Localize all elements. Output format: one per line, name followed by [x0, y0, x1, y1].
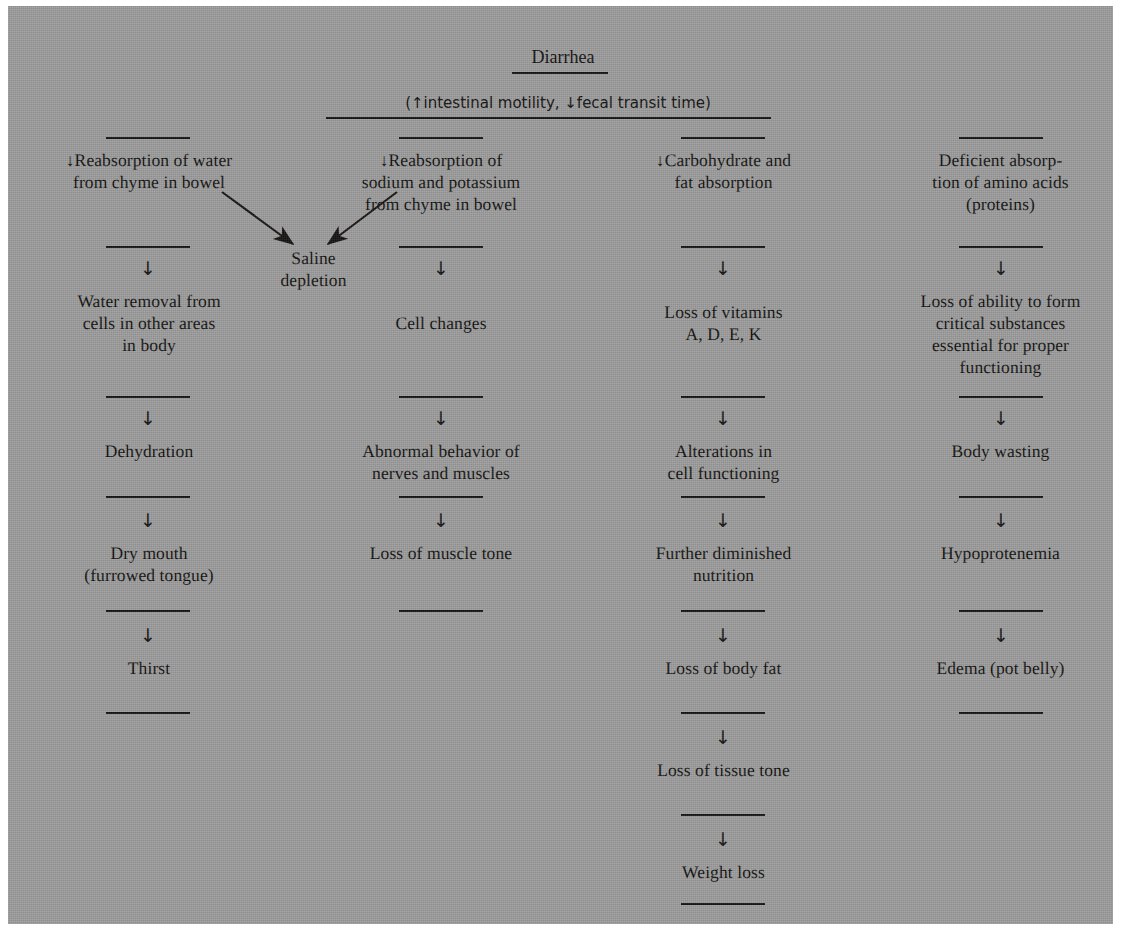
arrow-c1-to-saline — [222, 192, 293, 244]
connector-layer — [8, 6, 1113, 924]
arrow-c2-to-saline — [328, 192, 397, 244]
diagram-page: Diarrhea (↑intestinal motility, ↓fecal t… — [8, 6, 1113, 924]
